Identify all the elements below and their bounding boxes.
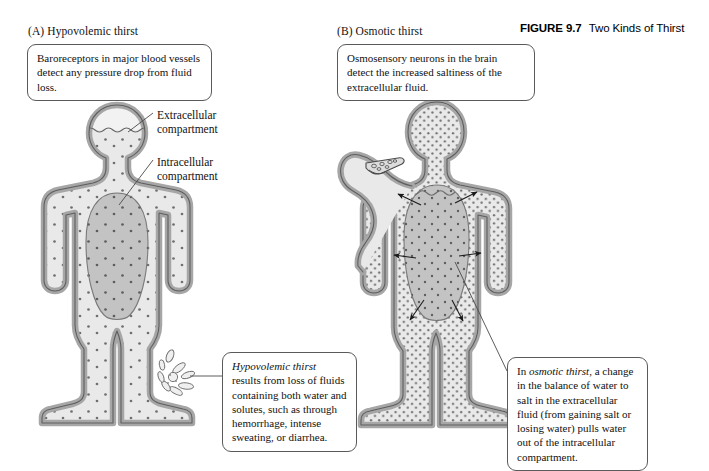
panel-b-body-figure <box>340 92 530 437</box>
panel-a-extracellular-compartment <box>30 95 210 435</box>
panel-a-body-outline-edge <box>42 105 192 423</box>
annotation-intracellular-line2: compartment <box>157 169 218 183</box>
panel-a-leak-droplets <box>167 374 177 384</box>
panel-b-extracellular-compartment <box>340 92 530 437</box>
panel-a-fluid-leak-spray <box>157 349 196 397</box>
panel-a-intracellular-compartment <box>80 188 160 328</box>
callout-b-bottom-pre: In <box>517 365 529 377</box>
panel-a-head-airspace <box>80 98 155 130</box>
figure-number: FIGURE 9.7 <box>520 22 582 34</box>
panel-b-salty-food-icon <box>366 158 404 174</box>
callout-panel-a-bottom: Hypovolemic thirst results from loss of … <box>222 352 357 452</box>
leader-line-extracellular <box>128 113 153 132</box>
panel-b-raised-arm <box>341 155 412 272</box>
figure-title: FIGURE 9.7Two Kinds of Thirst <box>520 22 684 34</box>
callout-a-bottom-italic: Hypovolemic thirst <box>232 360 316 372</box>
annotation-extracellular-compartment: Extracellular compartment <box>157 108 218 136</box>
callout-b-bottom-rest: , a change in the balance of water to sa… <box>517 365 633 463</box>
leader-line-intracellular <box>119 160 153 205</box>
panel-b-intracellular-compartment <box>398 180 478 330</box>
figure-title-text: Two Kinds of Thirst <box>589 22 685 34</box>
callout-a-bottom-rest: results from loss of fluids containing b… <box>232 374 347 443</box>
annotation-intracellular-line1: Intracellular <box>157 155 218 169</box>
callout-panel-a-top: Baroreceptors in major blood vessels det… <box>27 44 212 101</box>
annotation-intracellular-compartment: Intracellular compartment <box>157 155 218 183</box>
panel-b-intracellular-wavy-top <box>400 191 472 196</box>
panel-b-body-outline-edge <box>361 102 511 425</box>
leader-line-callout-b-bottom <box>455 262 507 371</box>
panel-a-body-figure <box>30 95 222 435</box>
annotation-extracellular-line2: compartment <box>157 122 218 136</box>
panel-a-body-outline-band <box>42 105 192 423</box>
panel-b-water-movement-arrows <box>394 192 481 321</box>
callout-b-bottom-italic: osmotic thirst <box>529 365 589 377</box>
callout-panel-b-top: Osmosensory neurons in the brain detect … <box>337 44 535 101</box>
panel-b-body-outline-band <box>361 102 511 425</box>
callout-panel-b-bottom: In osmotic thirst, a change in the balan… <box>507 357 648 471</box>
panel-a-fluid-level-wavy-line <box>86 128 149 132</box>
panel-b-label: (B) Osmotic thirst <box>337 25 423 37</box>
annotation-extracellular-line1: Extracellular <box>157 108 218 122</box>
panel-a-label: (A) Hypovolemic thirst <box>28 25 138 37</box>
